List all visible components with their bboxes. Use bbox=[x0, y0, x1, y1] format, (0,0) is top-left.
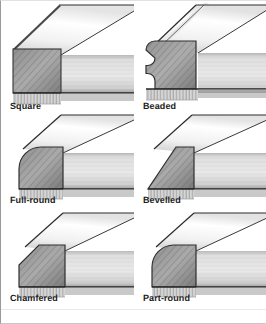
profile-grid: Square bbox=[1, 1, 266, 312]
square-illustration bbox=[1, 1, 134, 113]
beaded-illustration bbox=[134, 1, 266, 113]
wood-profiles-figure: Square bbox=[0, 0, 266, 324]
profile-panel-beaded: Beaded bbox=[134, 1, 266, 113]
figure-baseline bbox=[1, 309, 266, 323]
panel-label-square: Square bbox=[10, 101, 41, 111]
profile-panel-part-round: Part-round bbox=[134, 209, 266, 312]
profile-panel-full-round: Full-round bbox=[1, 113, 134, 209]
profile-panel-bevelled: Bevelled bbox=[134, 113, 266, 209]
panel-label-full-round: Full-round bbox=[10, 195, 56, 205]
panel-label-bevelled: Bevelled bbox=[143, 195, 181, 205]
profile-panel-chamfered: Chamfered bbox=[1, 209, 134, 312]
panel-label-beaded: Beaded bbox=[143, 101, 176, 111]
profile-panel-square: Square bbox=[1, 1, 134, 113]
panel-label-chamfered: Chamfered bbox=[10, 293, 58, 303]
panel-label-part-round: Part-round bbox=[143, 293, 190, 303]
